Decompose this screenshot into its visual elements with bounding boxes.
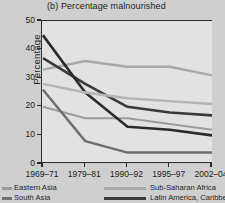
legend-swatch	[104, 187, 146, 190]
x-axis-tick-mark	[126, 163, 127, 167]
y-axis-tick-mark	[37, 19, 41, 20]
axis-decorations: 010203040501969–711979–811990–921995–972…	[0, 0, 225, 203]
chart-legend: Eastern AsiaSouth AsiaSub-Saharan Africa…	[0, 182, 225, 203]
x-axis-tick-mark	[84, 163, 85, 167]
y-axis-tick-label: 10	[9, 130, 35, 138]
legend-label: Sub-Saharan Africa	[150, 184, 216, 192]
x-axis-tick-mark	[210, 163, 211, 167]
figure-panel: (b) Percentage malnourished Percentage 0…	[0, 0, 225, 203]
legend-label: Latin America, Caribbean	[150, 194, 225, 202]
y-axis-tick-mark	[37, 48, 41, 49]
legend-label: South Asia	[14, 194, 50, 202]
x-axis-tick-mark	[41, 163, 42, 167]
y-axis-tick-mark	[37, 77, 41, 78]
legend-label: Eastern Asia	[14, 184, 57, 192]
legend-swatch	[104, 197, 146, 200]
y-axis-tick-mark	[37, 134, 41, 135]
x-axis-tick-mark	[168, 163, 169, 167]
y-axis-tick-mark	[37, 162, 41, 163]
y-axis-tick-label: 30	[9, 73, 35, 81]
y-axis-tick-label: 20	[9, 101, 35, 109]
y-axis-tick-label: 50	[9, 16, 35, 24]
y-axis-tick-mark	[37, 105, 41, 106]
legend-swatch	[2, 187, 12, 190]
x-axis-tick-label: 2002–04	[186, 169, 225, 179]
y-axis-tick-label: 0	[9, 159, 35, 167]
legend-swatch	[2, 197, 12, 200]
y-axis-tick-label: 40	[9, 44, 35, 52]
